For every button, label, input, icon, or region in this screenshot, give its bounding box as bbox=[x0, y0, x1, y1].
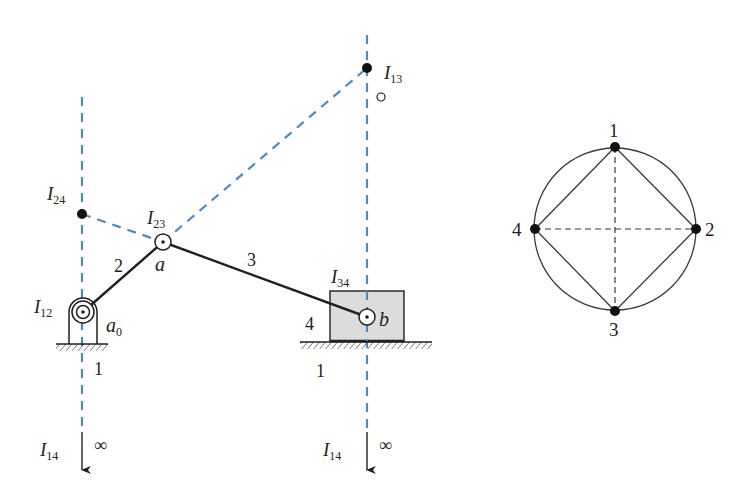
label-a0: a0 bbox=[106, 314, 122, 339]
label-i14-right: I14 bbox=[322, 439, 341, 463]
label-ground-right: 1 bbox=[316, 361, 325, 381]
node-4 bbox=[530, 224, 540, 234]
label-b: b bbox=[379, 308, 389, 330]
label-i14-left: I14 bbox=[39, 439, 58, 463]
label-i12: I12 bbox=[33, 296, 52, 320]
label-infinity-right: ∞ bbox=[379, 435, 392, 455]
label-link-2: 2 bbox=[114, 256, 123, 276]
node-label-4: 4 bbox=[512, 219, 522, 240]
joint-a0 bbox=[72, 301, 94, 323]
node-1 bbox=[610, 142, 620, 152]
i13-dot bbox=[362, 63, 372, 73]
joint-a bbox=[155, 234, 171, 250]
linear-graph: 1 2 3 4 bbox=[512, 120, 715, 340]
label-i23: I23 bbox=[146, 207, 165, 231]
label-i13: I13 bbox=[383, 62, 402, 86]
label-link-3: 3 bbox=[247, 250, 256, 270]
node-label-3: 3 bbox=[609, 319, 619, 340]
line-i23-i13 bbox=[163, 68, 367, 242]
label-i34: I34 bbox=[330, 266, 349, 290]
i13-open-marker bbox=[377, 93, 385, 101]
i24-dot bbox=[77, 209, 87, 219]
label-infinity-left: ∞ bbox=[94, 435, 107, 455]
instant-centers-diagram: I24 I23 a 2 3 I12 a0 1 I34 b 4 1 I13 I14… bbox=[0, 0, 748, 501]
joint-b bbox=[359, 309, 375, 325]
label-i24: I24 bbox=[46, 183, 65, 207]
right-ground bbox=[300, 342, 432, 349]
node-3 bbox=[610, 306, 620, 316]
label-link-4: 4 bbox=[305, 314, 314, 334]
left-ground bbox=[56, 344, 108, 351]
node-label-2: 2 bbox=[705, 219, 715, 240]
node-label-1: 1 bbox=[609, 120, 619, 141]
label-a: a bbox=[155, 253, 165, 275]
node-2 bbox=[691, 224, 701, 234]
label-ground-left: 1 bbox=[94, 359, 103, 379]
link-2 bbox=[83, 242, 163, 312]
